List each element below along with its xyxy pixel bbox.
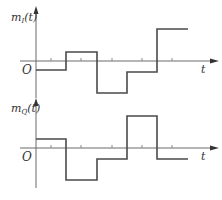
origin-label: O <box>22 63 32 77</box>
panel-inphase: mI(t) O t <box>11 6 219 98</box>
origin-label: O <box>22 150 32 164</box>
panel-quadrature: mQ(t) O t <box>11 98 219 188</box>
waveform-diagram: mI(t) O t mQ(t) O t <box>0 0 222 200</box>
x-axis-label: t <box>201 150 206 163</box>
x-axis-arrow-icon <box>210 59 219 64</box>
x-axis-label: t <box>201 63 206 76</box>
y-axis-label-quadrature: mQ(t) <box>11 102 40 116</box>
y-axis-label-inphase: mI(t) <box>11 11 37 25</box>
x-axis-arrow-icon <box>210 146 219 151</box>
